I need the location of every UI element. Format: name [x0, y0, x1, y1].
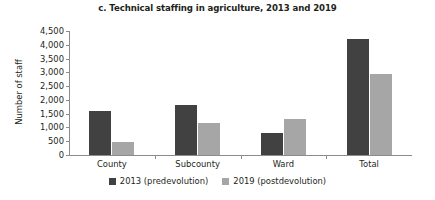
y-axis-tick-label: 4,000	[26, 41, 64, 49]
y-axis-tick-label: 3,500	[26, 55, 64, 63]
bar-county-2013	[89, 111, 111, 155]
y-axis-tick-label: 1,000	[26, 123, 64, 131]
y-axis-tick-label: 0	[26, 151, 64, 159]
chart-legend: 2013 (predevolution)2019 (postdevolution…	[0, 176, 435, 186]
x-axis-tick-mark	[326, 155, 327, 159]
chart-title: c. Technical staffing in agriculture, 20…	[0, 3, 435, 13]
x-axis-tick-mark	[155, 155, 156, 159]
y-axis-tick-label: 500	[26, 137, 64, 145]
y-axis-title-text: Number of staff	[14, 59, 24, 125]
legend-label: 2019 (postdevolution)	[233, 176, 326, 186]
bar-ward-2019	[284, 119, 306, 155]
x-axis-category-label: Ward	[243, 159, 323, 169]
legend-label: 2013 (predevolution)	[120, 176, 208, 186]
x-axis-tick-mark	[241, 155, 242, 159]
legend-swatch-icon	[222, 178, 229, 185]
legend-item[interactable]: 2019 (postdevolution)	[222, 176, 326, 186]
bar-county-2019	[112, 142, 134, 155]
y-axis-tick-label: 3,000	[26, 68, 64, 76]
legend-swatch-icon	[109, 178, 116, 185]
x-axis-category-label: Total	[329, 159, 409, 169]
bar-ward-2013	[261, 133, 283, 155]
bar-total-2013	[347, 39, 369, 155]
bar-subcounty-2019	[198, 123, 220, 155]
chart-figure: c. Technical staffing in agriculture, 20…	[0, 0, 435, 200]
x-axis-category-label: County	[72, 159, 152, 169]
bar-subcounty-2013	[175, 105, 197, 155]
y-axis-tick-label: 2,500	[26, 82, 64, 90]
bar-total-2019	[370, 74, 392, 155]
plot-area	[69, 31, 412, 155]
y-axis-tick-label: 4,500	[26, 27, 64, 35]
y-axis-tick-labels: 05001,0001,5002,0002,5003,0003,5004,0004…	[26, 31, 64, 155]
y-axis-tick-label: 2,000	[26, 96, 64, 104]
y-axis-title: Number of staff	[12, 28, 26, 156]
y-axis-tick-label: 1,500	[26, 110, 64, 118]
x-axis-category-label: Subcounty	[158, 159, 238, 169]
legend-item[interactable]: 2013 (predevolution)	[109, 176, 208, 186]
